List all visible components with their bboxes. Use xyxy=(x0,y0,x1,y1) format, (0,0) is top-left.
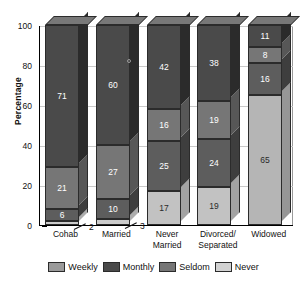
bar-segment[interactable]: 16 xyxy=(248,63,282,95)
bar-segment-side-face xyxy=(130,132,139,195)
bar-column: 17251642 xyxy=(147,26,181,225)
bar-group[interactable]: 3102760 xyxy=(96,26,130,225)
bar-top-face xyxy=(147,16,199,25)
legend-item[interactable]: Seldom xyxy=(159,262,210,272)
bar-group[interactable]: 262171 xyxy=(45,26,79,225)
bar-segment[interactable]: 3 xyxy=(96,219,130,225)
y-tick-mark xyxy=(42,226,47,227)
bar-segment[interactable]: 42 xyxy=(147,25,181,109)
bar-segment-value: 11 xyxy=(249,32,281,41)
plot-area: 262171310276017251642192419386516811 xyxy=(39,26,293,226)
y-tick-label: 60 xyxy=(8,102,32,111)
bar-segment-callout-value: 2 xyxy=(89,223,94,232)
bar-segment-value: 25 xyxy=(148,162,180,171)
bar-segment[interactable]: 8 xyxy=(248,47,282,63)
bar-top-face xyxy=(45,16,97,25)
bar-segment-side-face xyxy=(282,82,291,221)
bar-top-face xyxy=(197,16,249,25)
legend-item[interactable]: Never xyxy=(215,262,259,272)
bar-segment-value: 42 xyxy=(148,63,180,72)
bar-segment-callout-value: 3 xyxy=(140,222,145,231)
bar-segment[interactable]: 38 xyxy=(197,25,231,101)
bar-segment[interactable]: 11 xyxy=(248,25,282,47)
bar-segment[interactable]: 19 xyxy=(197,101,231,139)
bar-segment-value: 16 xyxy=(249,75,281,84)
bar-column: 3102760 xyxy=(96,26,130,225)
bar-segment-value: 19 xyxy=(198,116,230,125)
legend-label: Weekly xyxy=(68,263,97,272)
legend-label: Monthly xyxy=(123,263,155,272)
bar-segment-side-face xyxy=(181,128,190,187)
bar-segment-value: 10 xyxy=(97,205,129,214)
y-tick-label: 20 xyxy=(8,182,32,191)
bar-segment-value: 38 xyxy=(198,59,230,68)
legend-label: Never xyxy=(235,263,259,272)
bar-column: 19241938 xyxy=(197,26,231,225)
bar-segment-value: 6 xyxy=(46,211,78,220)
y-axis-ticks: 100806040200 xyxy=(8,0,32,293)
bar-segment[interactable]: 25 xyxy=(147,141,181,191)
bar-segment-value: 27 xyxy=(97,168,129,177)
bar-segment[interactable]: 24 xyxy=(197,139,231,187)
bar-column: 262171 xyxy=(45,26,79,225)
bar-segment[interactable]: 6 xyxy=(45,209,79,221)
bar-segment[interactable]: 2 xyxy=(45,221,79,225)
bar-top-face xyxy=(96,16,148,25)
bar-segment-side-face xyxy=(79,12,88,163)
bar-group[interactable]: 17251642 xyxy=(147,26,181,225)
legend-swatch xyxy=(48,262,65,272)
bar-segment[interactable]: 21 xyxy=(45,167,79,209)
bar-segment-value: 71 xyxy=(46,92,78,101)
legend-label: Seldom xyxy=(179,263,210,272)
bar-segment[interactable]: 16 xyxy=(147,109,181,141)
legend-item[interactable]: Monthly xyxy=(103,262,155,272)
y-tick-label: 40 xyxy=(8,142,32,151)
x-axis-label-line: Widowed xyxy=(232,229,306,240)
bar-series-container: 262171310276017251642192419386516811 xyxy=(40,26,293,225)
bar-segment-value: 8 xyxy=(249,51,281,60)
bar-segment-value: 60 xyxy=(97,81,129,90)
legend-swatch xyxy=(159,262,176,272)
bar-segment-value: 19 xyxy=(198,202,230,211)
bar-segment-value: 65 xyxy=(249,156,281,165)
y-tick-label: 100 xyxy=(8,22,32,31)
bar-column: 6516811 xyxy=(248,26,282,225)
x-axis-label: Widowed xyxy=(232,229,306,240)
legend-item[interactable]: Weekly xyxy=(48,262,97,272)
bar-segment[interactable]: 19 xyxy=(197,187,231,225)
bar-segment-side-face xyxy=(231,126,240,183)
bar-segment[interactable]: 60 xyxy=(96,25,130,145)
bar-group[interactable]: 19241938 xyxy=(197,26,231,225)
bar-top-face xyxy=(248,16,300,25)
bar-segment-side-face xyxy=(181,12,190,105)
bar-segment-value: 16 xyxy=(148,121,180,130)
scan-artifact-speck xyxy=(127,59,131,63)
x-axis-label-line: Separated xyxy=(181,240,255,251)
bar-segment[interactable]: 17 xyxy=(147,191,181,225)
bar-segment[interactable]: 27 xyxy=(96,145,130,199)
legend-swatch xyxy=(215,262,232,272)
bar-group[interactable]: 6516811 xyxy=(248,26,282,225)
legend-swatch xyxy=(103,262,120,272)
bar-segment[interactable]: 10 xyxy=(96,199,130,219)
bar-segment-value: 24 xyxy=(198,159,230,168)
bar-segment[interactable]: 65 xyxy=(248,95,282,225)
bar-segment-side-face xyxy=(130,12,139,141)
chart-legend: WeeklyMonthlySeldomNever xyxy=(0,262,307,272)
bar-segment[interactable]: 71 xyxy=(45,25,79,167)
bar-segment-value: 17 xyxy=(148,204,180,213)
y-tick-label: 80 xyxy=(8,62,32,71)
stacked-bar-chart: Percentage 100806040200 2621713102760172… xyxy=(0,0,307,293)
bar-segment-value: 21 xyxy=(46,184,78,193)
